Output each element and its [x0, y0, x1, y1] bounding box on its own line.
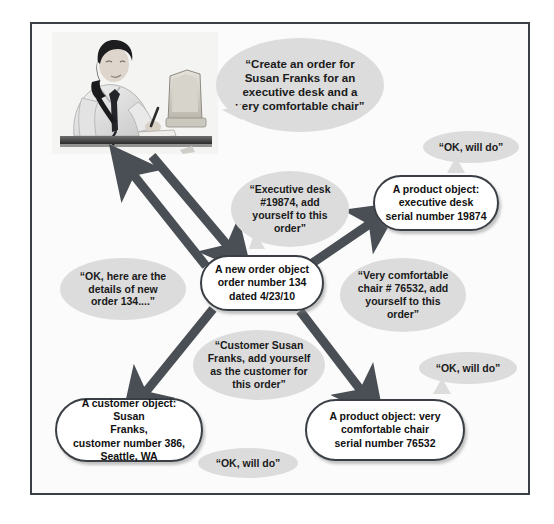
speech-bubble-customer-message-text: “Customer Susan Franks, add yourself as … — [200, 339, 319, 390]
speech-bubble-order-details-reply-text: “OK, here are the details of new order 1… — [72, 270, 174, 308]
speech-bubble-ok-will-do-chair: “OK, will do” — [419, 352, 517, 384]
speech-bubble-executive-desk-message: “Executive desk #19874, add yourself to … — [231, 171, 349, 247]
speech-bubble-customer-message: “Customer Susan Franks, add yourself as … — [193, 330, 325, 400]
speech-bubble-ok-will-do-customer-text: “OK, will do” — [208, 457, 289, 470]
speech-bubble-executive-desk-message-text: “Executive desk #19874, add yourself to … — [241, 183, 338, 234]
speech-bubble-tail — [222, 104, 242, 120]
speech-bubble-ok-will-do-desk-text: “OK, will do” — [431, 141, 512, 154]
node-desk-product-object-text: A product object: executive desk serial … — [376, 183, 497, 222]
diagram-canvas: “Create an order for Susan Franks for an… — [0, 0, 554, 524]
node-desk-product-object: A product object: executive desk serial … — [373, 175, 499, 231]
speech-bubble-ok-will-do-chair-text: “OK, will do” — [428, 362, 509, 375]
speech-bubble-tail — [249, 231, 265, 249]
speech-bubble-ok-will-do-customer: “OK, will do” — [198, 448, 298, 478]
speech-bubble-ok-will-do-desk: “OK, will do” — [423, 131, 519, 163]
node-chair-product-object: A product object: very comfortable chair… — [305, 399, 465, 461]
node-order-object-text: A new order object order number 134 date… — [205, 263, 319, 302]
node-customer-object-text: A customer object: Susan Franks, custome… — [57, 397, 201, 463]
arrow-order-to-person — [128, 168, 206, 266]
speech-bubble-tail — [433, 378, 451, 394]
speech-bubble-order-details-reply: “OK, here are the details of new order 1… — [60, 258, 186, 320]
speech-bubble-comfortable-chair-message-text: “Very comfortable chair # 76532, add you… — [350, 269, 456, 320]
arrow-person-to-order — [152, 156, 233, 252]
node-order-object: A new order object order number 134 date… — [200, 255, 324, 311]
speech-bubble-comfortable-chair-message: “Very comfortable chair # 76532, add you… — [340, 258, 466, 332]
node-chair-product-object-text: A product object: very comfortable chair… — [319, 410, 450, 449]
node-customer-object: A customer object: Susan Franks, custome… — [55, 398, 203, 462]
speech-bubble-tail — [447, 157, 465, 173]
speech-bubble-request: “Create an order for Susan Franks for an… — [216, 38, 384, 132]
speech-bubble-request-text: “Create an order for Susan Franks for an… — [227, 57, 372, 113]
